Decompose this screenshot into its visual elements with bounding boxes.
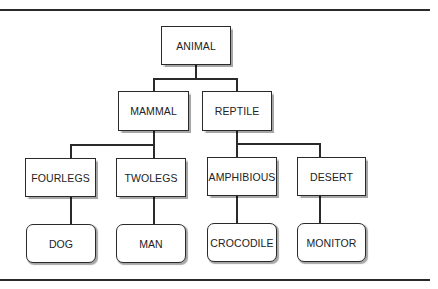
node-crocodile: CROCODILE <box>207 223 277 262</box>
node-reptile: REPTILE <box>202 91 272 131</box>
connector-animal-branch <box>153 78 238 80</box>
connector-to-mammal <box>153 78 155 91</box>
connector-reptile-branch <box>236 143 320 145</box>
node-desert: DESERT <box>297 157 366 196</box>
node-amphibious: AMPHIBIOUS <box>207 157 277 196</box>
connector-desert-monitor <box>319 196 321 224</box>
node-fourlegs: FOURLEGS <box>25 158 96 197</box>
node-twolegs: TWOLEGS <box>116 158 186 197</box>
top-rule <box>0 9 430 11</box>
node-animal: ANIMAL <box>161 26 231 65</box>
node-mammal: MAMMAL <box>118 91 189 131</box>
connector-amphibious-crocodile <box>236 196 238 224</box>
bottom-rule <box>0 279 430 281</box>
connector-to-fourlegs <box>70 144 72 158</box>
connector-fourlegs-dog <box>70 196 72 224</box>
node-dog: DOG <box>26 224 96 263</box>
connector-to-desert <box>319 143 321 158</box>
node-monitor: MONITOR <box>297 223 366 262</box>
connector-mammal-branch <box>70 144 154 146</box>
connector-animal-down <box>195 64 197 79</box>
node-man: MAN <box>116 224 186 263</box>
connector-twolegs-man <box>153 196 155 224</box>
connector-to-reptile <box>236 78 238 91</box>
